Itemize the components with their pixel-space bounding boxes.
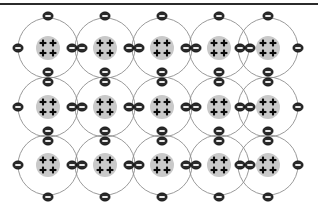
electron-pair-lower [214,137,224,145]
nucleus-disc [93,95,117,119]
electron-pair-upper [43,127,53,135]
nucleus [207,95,231,119]
nucleus [36,95,60,119]
electron-pair-upper [263,127,273,135]
electron-pair-upper [43,68,53,76]
nucleus [256,95,280,119]
electron-pair-left [124,161,134,169]
electron-top [43,12,53,20]
electron-pair-left [235,103,245,111]
electron-pair-upper [214,68,224,76]
nucleus [256,36,280,60]
electron-pair-right [191,161,201,169]
electron-pair-lower [43,137,53,145]
nucleus [207,153,231,177]
nucleus-disc [150,153,174,177]
nucleus [36,153,60,177]
nucleus [207,36,231,60]
electron-pair-left [181,103,191,111]
electron-left-edge [13,103,23,111]
nucleus-disc [93,153,117,177]
electron-bottom [263,193,273,201]
electron-top [214,12,224,20]
electron-pair-right [191,44,201,52]
electron-pair-lower [214,78,224,86]
electron-bottom [100,193,110,201]
nucleus-disc [207,36,231,60]
nucleus-disc [36,36,60,60]
electron-pair-upper [157,127,167,135]
electron-pair-lower [263,78,273,86]
nucleus-disc [36,95,60,119]
nucleus-disc [150,95,174,119]
electron-pair-right [191,103,201,111]
electron-pair-right [245,44,255,52]
nucleus-disc [256,95,280,119]
nucleus-disc [256,36,280,60]
nucleus-disc [93,36,117,60]
electron-pair-left [124,44,134,52]
nucleus [36,36,60,60]
electron-pair-upper [214,127,224,135]
electron-pair-right [77,161,87,169]
electron-right-edge [293,161,303,169]
electron-left-edge [13,44,23,52]
electron-pair-right [134,103,144,111]
nucleus [256,153,280,177]
nucleus [93,153,117,177]
electron-pair-left [181,44,191,52]
electron-pair-upper [157,68,167,76]
electron-pair-lower [100,78,110,86]
electron-bottom [214,193,224,201]
electron-pair-upper [100,127,110,135]
electron-pair-left [67,103,77,111]
nucleus [150,153,174,177]
electron-pair-upper [263,68,273,76]
electron-pair-lower [157,78,167,86]
lattice-diagram-canvas [0,0,318,209]
electron-pair-lower [157,137,167,145]
electron-pair-right [245,103,255,111]
electron-right-edge [293,103,303,111]
electron-top [100,12,110,20]
nucleus [150,95,174,119]
electron-pair-right [245,161,255,169]
nucleus [93,36,117,60]
nucleus-disc [256,153,280,177]
electron-bottom [157,193,167,201]
electron-pair-left [235,44,245,52]
electron-pair-lower [263,137,273,145]
electron-pair-lower [43,78,53,86]
electron-pair-right [134,44,144,52]
nucleus [93,95,117,119]
electron-right-edge [293,44,303,52]
electron-pair-left [67,44,77,52]
electron-pair-left [124,103,134,111]
nucleus [150,36,174,60]
lattice-svg [0,0,318,209]
electron-top [263,12,273,20]
nucleus-disc [207,95,231,119]
nucleus-disc [150,36,174,60]
electron-top [157,12,167,20]
electron-bottom [43,193,53,201]
nucleus-disc [207,153,231,177]
electron-pair-lower [100,137,110,145]
electron-pair-left [235,161,245,169]
electron-pair-right [134,161,144,169]
electron-pair-left [67,161,77,169]
electron-left-edge [13,161,23,169]
nucleus-disc [36,153,60,177]
electron-pair-right [77,103,87,111]
electron-pair-left [181,161,191,169]
electron-pair-right [77,44,87,52]
electron-pair-upper [100,68,110,76]
